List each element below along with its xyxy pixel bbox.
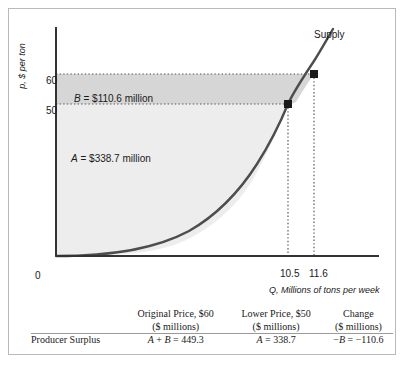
origin-label: 0 [35, 270, 41, 281]
cell-change: −B = −110.6 [324, 334, 393, 346]
x-axis-title: Q, Millions of tons per week [269, 285, 380, 295]
row-label-producer-surplus: Producer Surplus [31, 334, 123, 346]
y-axis-title: p, $ per ton [17, 43, 27, 89]
column-header-change: Change ($ millions) [324, 307, 393, 334]
supply-curve-label: Supply [314, 29, 345, 40]
column-header-line1: Change [324, 307, 393, 320]
y-tick-label-50: 50 [46, 105, 57, 116]
table-row: Producer Surplus A + B = 449.3 A = 338.7… [31, 334, 393, 346]
column-header-line2: ($ millions) [324, 320, 393, 333]
area-b-symbol: B [74, 93, 81, 104]
figure-page: p, $ per ton Q, Millions of tons per wee… [0, 0, 415, 373]
supply-curve-chart [9, 9, 395, 354]
area-a-value: = $338.7 million [78, 153, 151, 164]
data-point-lower-price [284, 100, 292, 108]
cell-operator: + [154, 334, 165, 345]
figure-frame: p, $ per ton Q, Millions of tons per wee… [8, 8, 396, 355]
cell-value: = 449.3 [171, 334, 204, 345]
data-point-original-price [310, 70, 318, 78]
column-header-line1: Lower Price, $50 [228, 307, 323, 320]
column-header-original-price: Original Price, $60 ($ millions) [123, 307, 228, 334]
cell-value: = −110.6 [345, 334, 383, 345]
cell-value: = 338.7 [263, 334, 296, 345]
area-b-label: B = $110.6 million [74, 93, 153, 104]
table-corner-cell [31, 307, 123, 334]
area-a-label: A = $338.7 million [71, 153, 151, 164]
area-a-symbol: A [71, 153, 78, 164]
x-tick-label-10-5: 10.5 [280, 268, 299, 279]
column-header-lower-price: Lower Price, $50 ($ millions) [228, 307, 323, 334]
producer-surplus-table: Original Price, $60 ($ millions) Lower P… [31, 307, 393, 345]
area-a-shading [56, 104, 288, 256]
area-b-value: = $110.6 million [81, 93, 153, 104]
summary-table: Original Price, $60 ($ millions) Lower P… [31, 307, 393, 345]
cell-lower-price: A = 338.7 [228, 334, 323, 346]
y-tick-label-60: 60 [46, 75, 57, 86]
column-header-line2: ($ millions) [228, 320, 323, 333]
column-header-line1: Original Price, $60 [123, 307, 228, 320]
cell-original-price: A + B = 449.3 [123, 334, 228, 346]
column-header-line2: ($ millions) [123, 320, 228, 333]
x-tick-label-11-6: 11.6 [309, 268, 328, 279]
table-header-row: Original Price, $60 ($ millions) Lower P… [31, 307, 393, 334]
